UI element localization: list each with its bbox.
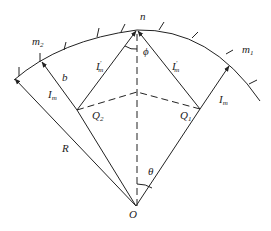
label-Im-left: Im [47,88,57,102]
geometry-diagram: n m1 m2 b Im Im I′m I′m Q2 Q1 R O θ ϕ [0,0,271,231]
label-n: n [140,10,146,22]
Q1-center-dashed [137,92,200,109]
label-m1: m1 [242,43,253,57]
O-Q1-line [136,109,200,206]
label-b: b [62,71,68,83]
label-Ipm-right: I′m [171,59,179,74]
label-m2: m2 [32,35,44,49]
radius-R-line [15,79,136,206]
diagram-canvas: n m1 m2 b Im Im I′m I′m Q2 Q1 R O θ ϕ [0,0,271,231]
label-Ipm-left: I′m [95,59,103,74]
Q2-center-dashed [77,92,137,110]
Ipm-right-vector [138,31,200,109]
Ipm-left-vector [77,31,136,110]
label-R: R [61,142,69,154]
label-Q1: Q1 [180,109,191,123]
Im-left-vector [42,62,77,110]
label-Im-right: Im [218,93,228,107]
label-phi: ϕ [143,45,149,57]
label-O: O [129,208,137,220]
phi-angle-arc [125,46,137,49]
label-Q2: Q2 [92,109,104,123]
O-Q2-line [77,110,136,206]
label-theta: θ [148,165,154,177]
